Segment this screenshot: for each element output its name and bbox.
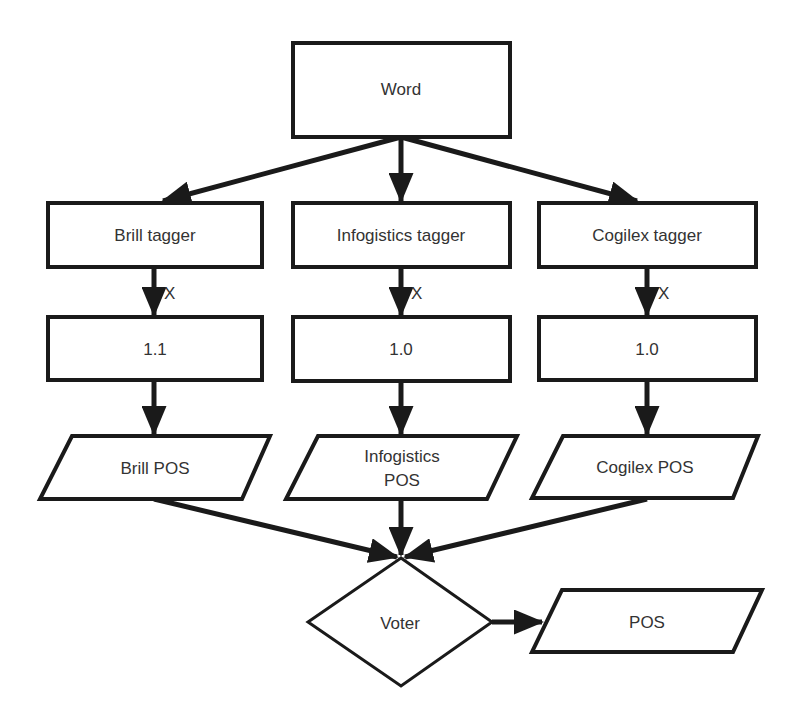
infogistics-weight-value: 1.0 [389,340,413,359]
node-brill-pos: Brill POS [40,436,270,499]
node-brill-weight: 1.1 [48,317,262,380]
infogistics-tagger-label: Infogistics tagger [337,226,466,245]
voter-label: Voter [380,614,420,633]
brill-weight-value: 1.1 [143,340,167,359]
node-voter: Voter [308,558,492,686]
node-final-pos: POS [532,590,762,652]
cogilex-weight-value: 1.0 [635,340,659,359]
infogistics-pos-label-line2: POS [384,471,420,490]
edge-brill-pos-to-voter [154,499,397,557]
node-cogilex-pos: Cogilex POS [532,436,758,498]
final-pos-label: POS [629,613,665,632]
node-word: Word [293,43,510,137]
edge-word-to-brill-tagger [163,137,401,201]
node-infogistics-tagger: Infogistics tagger [293,203,510,267]
brill-pos-label: Brill POS [121,459,190,478]
node-brill-tagger: Brill tagger [48,203,262,267]
edge-cogilex-pos-to-voter [405,499,647,557]
multiply-label-infogistics: X [411,284,422,303]
edge-word-to-cogilex-tagger [401,137,637,201]
word-label: Word [381,80,421,99]
infogistics-pos-label-line1: Infogistics [364,447,440,466]
multiply-label-brill: X [164,284,175,303]
infogistics-pos-parallelogram [286,436,517,499]
node-infogistics-weight: 1.0 [293,317,510,381]
multiply-label-cogilex: X [658,284,669,303]
cogilex-pos-label: Cogilex POS [596,458,693,477]
node-cogilex-weight: 1.0 [539,317,756,380]
brill-tagger-label: Brill tagger [114,226,196,245]
pos-tagger-voting-flowchart: X X X Word Brill tagger Infogistics tagg… [0,0,795,715]
cogilex-tagger-label: Cogilex tagger [592,226,702,245]
node-infogistics-pos: Infogistics POS [286,436,517,499]
node-cogilex-tagger: Cogilex tagger [539,203,756,267]
